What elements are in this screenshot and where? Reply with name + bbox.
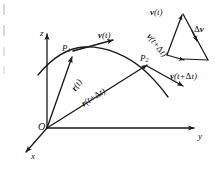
point-p1-label: P1 <box>62 44 71 53</box>
z-axis-label: z <box>40 29 44 38</box>
velocity-v-t-plus-dt-label: v(t+Δt) <box>170 72 197 81</box>
x-axis-label: x <box>31 152 35 161</box>
diagram-canvas <box>0 0 222 169</box>
velocity-v-t-label: v(t) <box>98 31 111 40</box>
triangle-v-t-label: v(t) <box>150 8 163 17</box>
delta-v-label: Δv <box>194 25 204 34</box>
vector-kinematics-diagram: z y x O P1 P2 v(t) v(t+Δt) r(t) r(t+Δt) … <box>0 0 222 169</box>
triangle-vector-v-t-plus-dt <box>167 55 184 60</box>
origin-label: O <box>38 122 45 132</box>
y-axis-label: y <box>198 132 202 141</box>
point-p2-label: P2 <box>140 54 149 63</box>
triangle-vector-v-t <box>167 15 182 55</box>
triangle-closing-side <box>183 59 208 60</box>
position-vector-r-t <box>47 57 72 128</box>
